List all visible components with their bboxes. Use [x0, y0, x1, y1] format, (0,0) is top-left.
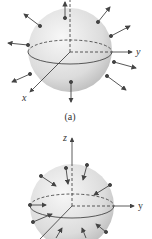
sphere-a-diagram: y x (a)	[8, 0, 141, 123]
z-label-b: z	[62, 132, 67, 143]
sphere-b-diagram: z y	[28, 132, 143, 239]
x-label-a: x	[21, 92, 27, 103]
y-label-b: y	[138, 200, 143, 211]
figure-canvas: y x (a) z y	[0, 0, 152, 239]
caption-a: (a)	[64, 111, 75, 123]
y-label-a: y	[135, 46, 141, 57]
